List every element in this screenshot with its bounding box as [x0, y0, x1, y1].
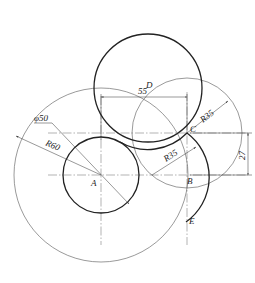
point-label-d: D [145, 80, 153, 90]
dim-line-phi50 [34, 123, 129, 204]
dim-r60-label: R60 [43, 137, 62, 153]
geometric-construction-drawing: 55 27 R35 R35 R60 φ50 A B C D E [0, 0, 255, 283]
dim-r35-lower-label: R35 [161, 147, 180, 164]
dim-phi50-label: φ50 [34, 113, 48, 123]
dim-27-label: 27 [237, 151, 247, 161]
point-label-e: E [188, 216, 195, 226]
point-label-a: A [90, 178, 97, 188]
point-label-c: C [190, 124, 197, 134]
point-label-b: B [187, 176, 193, 186]
